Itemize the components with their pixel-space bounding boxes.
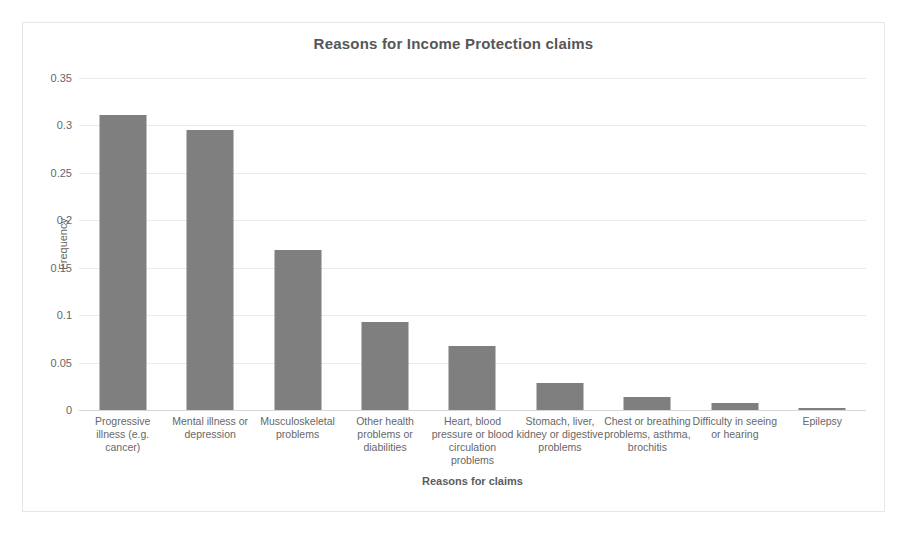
bar-slot <box>79 78 166 410</box>
x-axis-tick-label: Difficulty in seeing or hearing <box>691 415 778 441</box>
bar[interactable] <box>536 383 583 410</box>
x-axis-tick-label: Heart, blood pressure or blood circulati… <box>429 415 516 467</box>
chart-container: Reasons for Income Protection claims Fre… <box>22 22 885 512</box>
bar-slot <box>604 78 691 410</box>
x-axis-tick-labels: Progressive illness (e.g. cancer)Mental … <box>79 415 866 507</box>
bar[interactable] <box>99 115 146 410</box>
bar-slot <box>254 78 341 410</box>
bar-slot <box>516 78 603 410</box>
y-axis-tick-label: 0.05 <box>51 357 72 369</box>
bar-slot <box>429 78 516 410</box>
bar[interactable] <box>711 403 758 410</box>
y-axis-tick-label: 0 <box>66 404 72 416</box>
bar[interactable] <box>449 346 496 411</box>
x-axis-tick-label: Chest or breathing problems, asthma, bro… <box>604 415 691 454</box>
y-axis-tick-label: 0.25 <box>51 167 72 179</box>
x-axis-tick-label: Mental illness or depression <box>166 415 253 441</box>
chart-title: Reasons for Income Protection claims <box>23 35 884 52</box>
bar-series <box>79 78 866 410</box>
bar-slot <box>691 78 778 410</box>
bar[interactable] <box>187 130 234 410</box>
x-axis-tick-label: Epilepsy <box>779 415 866 428</box>
bar-slot <box>166 78 253 410</box>
x-axis-tick-label: Musculoskeletal problems <box>254 415 341 441</box>
x-axis-tick-label: Stomach, liver, kidney or digestive prob… <box>516 415 603 454</box>
x-axis-tick-label: Progressive illness (e.g. cancer) <box>79 415 166 454</box>
x-axis-title: Reasons for claims <box>79 475 866 487</box>
bar-slot <box>779 78 866 410</box>
y-axis-tick-label: 0.35 <box>51 72 72 84</box>
bar[interactable] <box>799 408 846 410</box>
gridline: 0 <box>79 410 866 411</box>
y-axis-tick-label: 0.2 <box>57 214 72 226</box>
x-axis-tick-label: Other health problems or diabilities <box>341 415 428 454</box>
bar[interactable] <box>624 397 671 410</box>
bar-slot <box>341 78 428 410</box>
plot-area: 00.050.10.150.20.250.30.35 <box>79 78 866 410</box>
bar[interactable] <box>274 250 321 410</box>
y-axis-tick-label: 0.3 <box>57 119 72 131</box>
y-axis-tick-label: 0.15 <box>51 262 72 274</box>
y-axis-tick-label: 0.1 <box>57 309 72 321</box>
bar[interactable] <box>362 322 409 410</box>
